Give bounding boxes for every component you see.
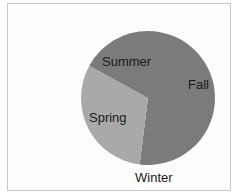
label-fall: Fall [188,77,209,92]
pie-chart [0,0,234,194]
label-winter: Winter [135,170,173,185]
label-summer: Summer [102,54,151,69]
label-spring: Spring [89,110,127,125]
slice-fall [140,31,215,165]
